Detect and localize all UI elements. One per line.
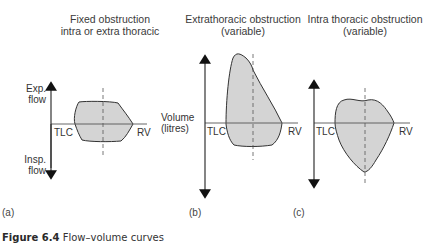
panel-c-title-line1: Intra thoracic obstruction (300, 13, 430, 25)
panel-c-tag: (c) (293, 207, 305, 218)
panel-c-tlc-label: TLC (316, 126, 335, 137)
volume-label-line1: Volume (161, 112, 194, 123)
panel-b-tlc-label: TLC (207, 126, 226, 137)
panel-b-rv-label: RV (288, 126, 302, 137)
panel-b-tag: (b) (189, 207, 201, 218)
panel-b-curve (205, 54, 298, 194)
panel-b-title: Extrathoracic obstruction (variable) (178, 13, 308, 37)
panel-a-tlc-label: TLC (54, 127, 73, 138)
panel-a-title: Fixed obstruction intra or extra thoraci… (55, 13, 165, 37)
exp-flow-label: Exp. flow (24, 83, 46, 105)
panel-c-rv-label: RV (399, 126, 413, 137)
insp-label-line1: Insp. (20, 154, 46, 165)
figure-caption-text: Flow–volume curves (59, 232, 163, 243)
panel-b-title-line2: (variable) (178, 25, 308, 37)
panel-a-rv-label: RV (137, 127, 151, 138)
insp-flow-label: Insp. flow (20, 154, 46, 176)
volume-label-line2: (litres) (161, 123, 194, 134)
panel-a-title-line1: Fixed obstruction (55, 13, 165, 25)
panel-b-title-line1: Extrathoracic obstruction (178, 13, 308, 25)
volume-axis-label: Volume (litres) (161, 112, 194, 134)
insp-label-line2: flow (20, 165, 46, 176)
figure-number: Figure 6.4 (2, 232, 59, 243)
panel-c-title: Intra thoracic obstruction (variable) (300, 13, 430, 37)
panel-c-title-line2: (variable) (300, 25, 430, 37)
panel-a-title-line2: intra or extra thoracic (55, 25, 165, 37)
figure-caption: Figure 6.4 Flow–volume curves (2, 232, 164, 243)
panel-a-tag: (a) (2, 207, 14, 218)
exp-label-line1: Exp. (24, 83, 46, 94)
exp-label-line2: flow (24, 94, 46, 105)
